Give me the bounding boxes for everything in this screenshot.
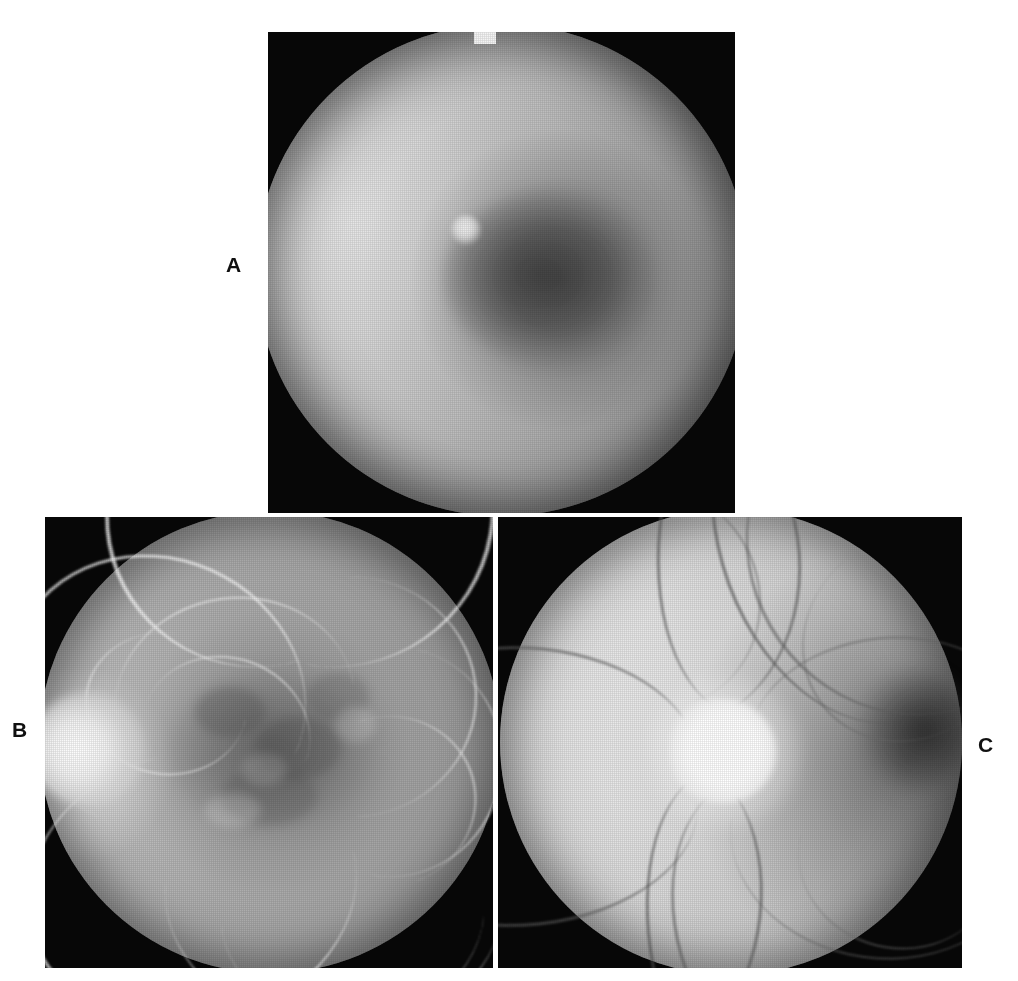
panel-b-image <box>45 517 493 968</box>
panel-a-fundus-photograph <box>268 32 735 513</box>
panel-c-image <box>498 517 962 968</box>
panel-a-image <box>268 32 735 513</box>
panel-c-optic-disc-photograph <box>498 517 962 968</box>
panel-label-c: C <box>978 734 993 755</box>
macular-lesion-a <box>443 190 655 366</box>
optic-disc-c <box>670 699 776 803</box>
panel-label-a: A <box>226 254 241 275</box>
panel-b-fluorescein-angiogram <box>45 517 493 968</box>
figure-root: A <box>0 0 1018 981</box>
panel-label-b: B <box>12 719 27 740</box>
focal-bright-lesion-a <box>451 215 481 245</box>
